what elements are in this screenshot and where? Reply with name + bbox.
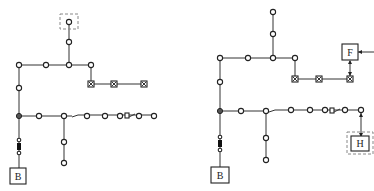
arrow-left-icon [358, 50, 362, 54]
node[interactable] [245, 55, 250, 60]
switch-icon[interactable] [72, 115, 78, 117]
source-label: B [217, 170, 224, 181]
switch-icon[interactable] [269, 110, 275, 112]
node[interactable] [151, 113, 156, 118]
node[interactable] [307, 107, 312, 112]
node[interactable] [263, 135, 268, 140]
load-square-icon[interactable] [141, 81, 147, 87]
load-square-icon[interactable] [111, 81, 117, 87]
node[interactable] [217, 55, 222, 60]
node[interactable] [270, 55, 275, 60]
source-label: B [15, 171, 22, 182]
feeder-label: F [347, 47, 353, 58]
node[interactable] [66, 19, 71, 24]
fuse-icon [17, 138, 21, 155]
node[interactable] [102, 113, 107, 118]
load-square-icon[interactable] [292, 76, 298, 82]
network-diagrams: B F [0, 0, 374, 191]
node[interactable] [61, 139, 66, 144]
node[interactable] [358, 107, 363, 112]
node[interactable] [16, 85, 21, 90]
load-box-h[interactable]: H [351, 136, 369, 151]
node[interactable] [66, 62, 71, 67]
node[interactable] [117, 113, 122, 118]
arrow-up-icon [359, 113, 363, 117]
node[interactable] [36, 113, 41, 118]
node[interactable] [43, 62, 48, 67]
node[interactable] [61, 160, 66, 165]
node[interactable] [66, 39, 71, 44]
fuse-icon [218, 135, 222, 152]
node[interactable] [263, 157, 268, 162]
right-network: F H [211, 9, 374, 183]
node[interactable] [263, 108, 268, 113]
load-square-icon[interactable] [347, 76, 353, 82]
load-square-icon[interactable] [316, 76, 322, 82]
node[interactable] [292, 55, 297, 60]
source-box-b[interactable]: B [10, 168, 26, 184]
junction-node[interactable] [217, 108, 222, 113]
junction-node[interactable] [16, 113, 21, 118]
node[interactable] [342, 107, 347, 112]
feeder-box-f[interactable]: F [342, 44, 358, 60]
left-network: B [10, 14, 157, 184]
node[interactable] [61, 113, 66, 118]
load-square-icon[interactable] [88, 81, 94, 87]
node[interactable] [84, 113, 89, 118]
node[interactable] [238, 108, 243, 113]
node[interactable] [288, 107, 293, 112]
node[interactable] [16, 62, 21, 67]
node[interactable] [270, 31, 275, 36]
node[interactable] [270, 9, 275, 14]
source-box-b[interactable]: B [211, 167, 229, 183]
node[interactable] [217, 79, 222, 84]
node[interactable] [88, 62, 93, 67]
arrow-up-icon [348, 60, 352, 64]
arrow-down-icon [348, 72, 352, 76]
load-label: H [356, 138, 363, 149]
node[interactable] [322, 107, 327, 112]
node[interactable] [136, 113, 141, 118]
